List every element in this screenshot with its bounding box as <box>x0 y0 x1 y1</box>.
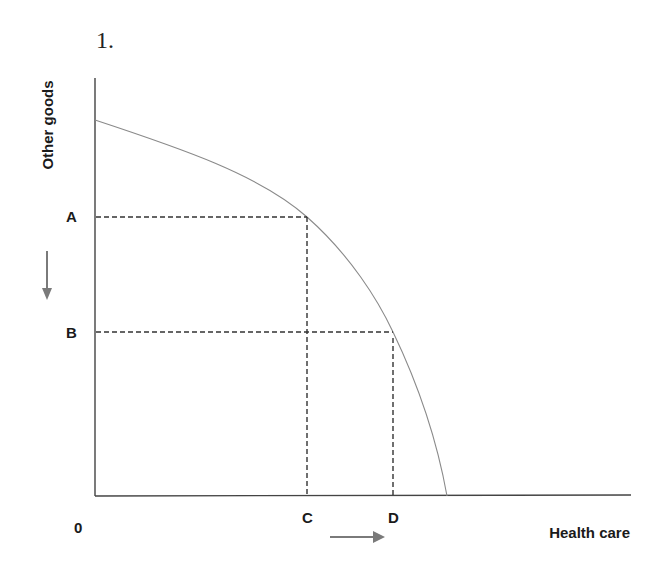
x-axis-title: Health care <box>549 524 630 541</box>
origin-label: 0 <box>74 519 82 536</box>
right-arrow-icon <box>330 531 385 543</box>
ppf-curve <box>95 120 447 496</box>
label-b: B <box>66 324 77 341</box>
ppf-diagram: 1. Other goods A B C D 0 Health care <box>0 0 662 570</box>
label-c: C <box>302 509 313 526</box>
y-axis-title: Other goods <box>39 80 56 169</box>
down-arrow-icon <box>42 251 52 300</box>
label-a: A <box>66 208 77 225</box>
x-axis <box>95 495 631 496</box>
label-d: D <box>388 509 399 526</box>
question-number: 1. <box>96 27 114 53</box>
